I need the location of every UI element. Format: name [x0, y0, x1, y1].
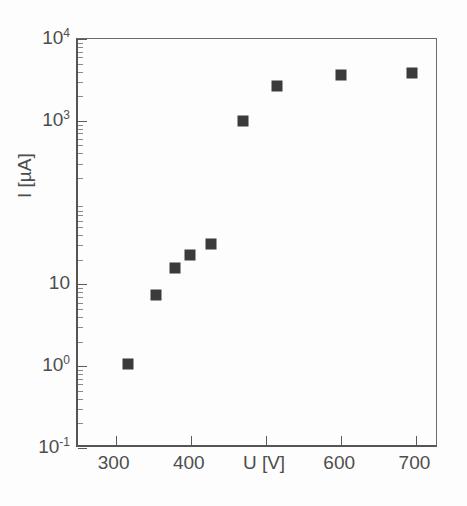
y-tick-minor — [78, 64, 83, 65]
y-tick-label: 100 — [42, 354, 70, 376]
y-tick-minor — [78, 215, 83, 216]
x-tick-major — [416, 436, 417, 445]
y-tick-minor — [78, 133, 83, 134]
y-tick-minor — [78, 423, 83, 424]
y-tick-exponent: -1 — [59, 435, 70, 449]
x-axis-title: U [V] — [243, 452, 285, 474]
y-tick-minor — [78, 235, 83, 236]
x-tick-major — [341, 436, 342, 445]
figure-canvas: I [µA] U [V] 1041031010010-1 30040060070… — [0, 0, 467, 506]
x-tick-label: 300 — [98, 452, 130, 474]
plot-area — [78, 39, 436, 445]
data-point-marker — [206, 239, 217, 250]
x-tick-label: 600 — [323, 452, 355, 474]
y-tick-major — [78, 121, 87, 122]
y-tick-major — [78, 39, 87, 40]
y-tick-minor — [78, 82, 83, 83]
y-tick-minor — [78, 399, 83, 400]
data-point-marker — [406, 68, 417, 79]
y-tick-minor — [78, 288, 83, 289]
y-tick-exponent: 3 — [63, 108, 70, 122]
y-tick-major — [78, 448, 87, 449]
y-tick-minor — [78, 309, 83, 310]
y-tick-minor — [78, 227, 83, 228]
y-tick-minor — [78, 409, 83, 410]
x-tick-major — [116, 436, 117, 445]
x-tick-major — [266, 436, 267, 445]
data-point-marker — [336, 70, 347, 81]
plot-frame — [76, 38, 437, 447]
y-tick-label: 10-1 — [38, 436, 70, 458]
x-tick-label: 700 — [399, 452, 431, 474]
y-tick-minor — [78, 370, 83, 371]
y-tick-minor — [78, 57, 83, 58]
y-tick-minor — [78, 327, 83, 328]
y-tick-minor — [78, 145, 83, 146]
y-tick-label: 10 — [49, 272, 70, 294]
y-tick-minor — [78, 153, 83, 154]
y-tick-minor — [78, 379, 83, 380]
y-tick-minor — [78, 178, 83, 179]
y-tick-minor — [78, 391, 83, 392]
data-point-marker — [151, 289, 162, 300]
data-point-marker — [122, 359, 133, 370]
y-tick-minor — [78, 374, 83, 375]
y-tick-minor — [78, 245, 83, 246]
y-tick-label: 104 — [42, 27, 70, 49]
y-tick-minor — [78, 342, 83, 343]
y-tick-minor — [78, 72, 83, 73]
y-tick-minor — [78, 125, 83, 126]
y-tick-minor — [78, 139, 83, 140]
y-tick-minor — [78, 52, 83, 53]
y-tick-minor — [78, 206, 83, 207]
y-tick-minor — [78, 317, 83, 318]
data-point-marker — [238, 115, 249, 126]
y-tick-minor — [78, 129, 83, 130]
y-tick-minor — [78, 164, 83, 165]
y-tick-major — [78, 284, 87, 285]
y-tick-minor — [78, 297, 83, 298]
y-tick-minor — [78, 303, 83, 304]
y-tick-minor — [78, 384, 83, 385]
y-tick-major — [78, 366, 87, 367]
y-tick-minor — [78, 221, 83, 222]
y-tick-minor — [78, 292, 83, 293]
data-point-marker — [271, 80, 282, 91]
x-tick-label: 400 — [173, 452, 205, 474]
y-tick-minor — [78, 260, 83, 261]
y-tick-label: 103 — [42, 109, 70, 131]
data-point-marker — [170, 262, 181, 273]
y-tick-minor — [78, 43, 83, 44]
y-tick-exponent: 4 — [63, 26, 70, 40]
x-tick-major — [191, 436, 192, 445]
y-tick-minor — [78, 96, 83, 97]
y-tick-minor — [78, 47, 83, 48]
y-axis-title: I [µA] — [14, 153, 36, 198]
y-tick-minor — [78, 211, 83, 212]
data-point-marker — [185, 249, 196, 260]
y-tick-exponent: 0 — [63, 353, 70, 367]
